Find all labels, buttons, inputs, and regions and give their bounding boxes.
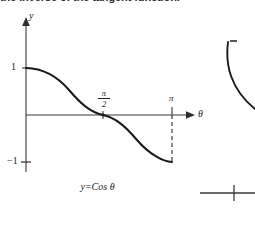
- cosine-plot-svg: [0, 0, 210, 227]
- pi-over-2-numerator: π: [97, 88, 111, 98]
- x-tick-label-pi: π: [169, 93, 174, 103]
- figure-caption: y=Cos θ: [0, 181, 195, 192]
- x-tick-label-pi-over-2: π 2: [97, 88, 111, 109]
- pi-over-2-denominator: 2: [97, 100, 111, 110]
- figure-caption-variable: θ: [110, 181, 115, 192]
- neighbor-curve: [227, 42, 255, 109]
- cosine-figure: y θ 1 −1 π π 2 y=Cos θ: [0, 0, 210, 227]
- y-tick-label-one: 1: [11, 61, 16, 72]
- neighbor-figure-svg: [196, 0, 255, 227]
- y-axis-label: y: [29, 10, 33, 21]
- y-axis: [22, 17, 30, 172]
- figure-caption-prefix: y=Cos: [80, 181, 109, 192]
- y-tick-label-neg-one: −1: [7, 155, 18, 166]
- neighbor-figure-fragment: −1: [196, 0, 255, 227]
- zero-crossing-point: [102, 114, 105, 117]
